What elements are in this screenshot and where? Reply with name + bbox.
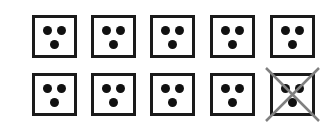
dot-icon — [50, 98, 59, 107]
three-dot-box — [150, 73, 195, 116]
dot-icon — [57, 84, 66, 93]
dot-icon — [175, 26, 184, 35]
dot-icon — [57, 26, 66, 35]
dot-icon — [102, 84, 111, 93]
three-dot-box — [270, 15, 315, 58]
dot-icon — [168, 98, 177, 107]
three-dot-box — [32, 73, 77, 116]
dot-icon — [102, 26, 111, 35]
dot-icon — [116, 26, 125, 35]
dot-icon — [235, 84, 244, 93]
dot-icon — [228, 40, 237, 49]
dot-icon — [295, 84, 304, 93]
dot-icon — [109, 98, 118, 107]
dot-icon — [288, 98, 297, 107]
dot-icon — [281, 84, 290, 93]
dot-icon — [221, 26, 230, 35]
three-dot-box — [32, 15, 77, 58]
dot-icon — [161, 84, 170, 93]
dot-icon — [168, 40, 177, 49]
dot-icon — [281, 26, 290, 35]
dot-icon — [235, 26, 244, 35]
dot-icon — [43, 26, 52, 35]
dot-icon — [50, 40, 59, 49]
dot-icon — [288, 40, 297, 49]
dot-icon — [175, 84, 184, 93]
three-dot-box — [150, 15, 195, 58]
dot-icon — [221, 84, 230, 93]
three-dot-box — [91, 15, 136, 58]
dot-icon — [109, 40, 118, 49]
three-dot-box — [210, 73, 255, 116]
three-dot-box — [91, 73, 136, 116]
crossed-out-box — [270, 73, 315, 116]
dot-icon — [161, 26, 170, 35]
dot-icon — [43, 84, 52, 93]
dot-icon — [295, 26, 304, 35]
dot-icon — [116, 84, 125, 93]
dot-icon — [228, 98, 237, 107]
three-dot-box — [210, 15, 255, 58]
